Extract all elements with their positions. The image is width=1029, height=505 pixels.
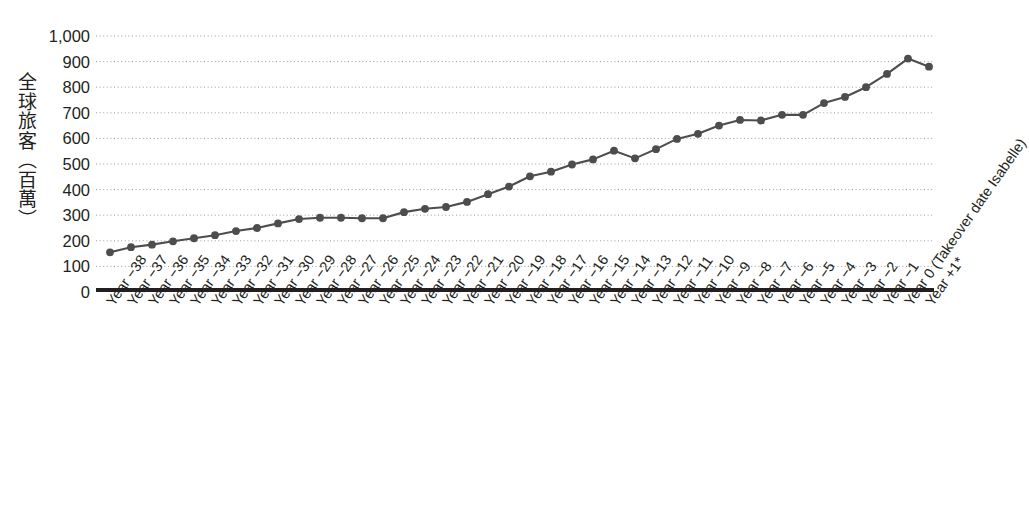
data-point[interactable] — [253, 224, 261, 232]
data-point[interactable] — [400, 208, 408, 216]
data-point[interactable] — [190, 234, 198, 242]
data-point[interactable] — [589, 155, 597, 163]
data-point[interactable] — [757, 117, 765, 125]
data-point[interactable] — [883, 70, 891, 78]
data-point[interactable] — [295, 215, 303, 223]
y-axis-title-text: 全球旅客（百萬） — [16, 72, 36, 228]
data-point[interactable] — [169, 237, 177, 245]
data-point[interactable] — [820, 99, 828, 107]
y-tick-label: 800 — [34, 79, 90, 96]
data-point[interactable] — [610, 147, 618, 155]
y-tick-label: 700 — [34, 105, 90, 122]
y-tick-label: 200 — [34, 233, 90, 250]
data-point[interactable] — [358, 214, 366, 222]
data-point[interactable] — [925, 63, 933, 71]
data-point[interactable] — [379, 214, 387, 222]
data-point[interactable] — [505, 183, 513, 191]
data-point[interactable] — [148, 241, 156, 249]
y-tick-label: 300 — [34, 207, 90, 224]
data-point[interactable] — [778, 111, 786, 119]
data-point[interactable] — [652, 145, 660, 153]
data-point[interactable] — [274, 219, 282, 227]
y-tick-label: 1,000 — [34, 28, 90, 45]
y-tick-label: 400 — [34, 181, 90, 198]
series-line — [110, 59, 929, 253]
data-point[interactable] — [127, 243, 135, 251]
data-point[interactable] — [232, 227, 240, 235]
data-point[interactable] — [673, 135, 681, 143]
data-point[interactable] — [211, 231, 219, 239]
y-tick-label: 900 — [34, 53, 90, 70]
y-tick-label: 0 — [34, 284, 90, 301]
y-tick-label: 600 — [34, 130, 90, 147]
data-point[interactable] — [862, 83, 870, 91]
data-point[interactable] — [106, 248, 114, 256]
data-point[interactable] — [463, 198, 471, 206]
footnote-strip — [0, 498, 956, 505]
data-point[interactable] — [568, 161, 576, 169]
data-point[interactable] — [904, 55, 912, 63]
data-point[interactable] — [484, 190, 492, 198]
data-point[interactable] — [526, 172, 534, 180]
data-point[interactable] — [799, 111, 807, 119]
y-axis-tick-labels: 01002003004005006007008009001,000 — [34, 0, 90, 505]
data-point[interactable] — [631, 154, 639, 162]
data-point[interactable] — [736, 116, 744, 124]
y-tick-label: 100 — [34, 258, 90, 275]
data-point[interactable] — [337, 214, 345, 222]
y-tick-label: 500 — [34, 156, 90, 173]
data-point[interactable] — [547, 168, 555, 176]
data-point[interactable] — [421, 205, 429, 213]
data-point[interactable] — [841, 93, 849, 101]
data-point[interactable] — [715, 122, 723, 130]
data-point[interactable] — [442, 203, 450, 211]
data-point[interactable] — [316, 214, 324, 222]
data-point[interactable] — [694, 130, 702, 138]
